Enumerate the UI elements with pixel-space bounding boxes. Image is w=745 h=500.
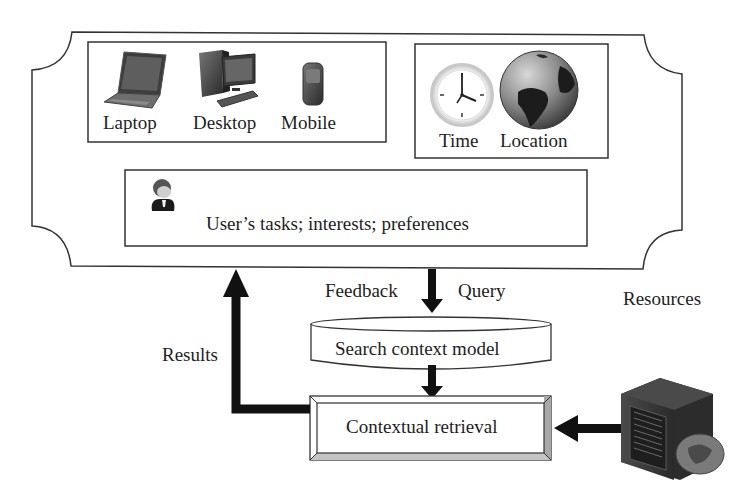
user-avatar-icon [152, 179, 175, 211]
device-label-mobile: Mobile [281, 112, 336, 134]
globe-icon [500, 51, 578, 129]
clock-icon [431, 64, 493, 126]
feedback-label: Feedback [325, 280, 398, 302]
query-label: Query [458, 280, 505, 302]
user-context-label: User’s tasks; interests; preferences [206, 213, 469, 235]
resources-label: Resources [623, 288, 701, 310]
results-arrow [223, 269, 310, 409]
laptop-icon [104, 52, 166, 108]
search-context-model-label: Search context model [335, 338, 500, 360]
contextual-retrieval-label: Contextual retrieval [346, 416, 497, 438]
query-arrow [421, 269, 443, 313]
model-to-retrieval-arrow [421, 365, 443, 399]
environment-label-time: Time [439, 130, 478, 152]
desktop-computer-icon [199, 50, 258, 107]
results-label: Results [162, 344, 218, 366]
mobile-phone-icon [303, 63, 323, 105]
device-label-desktop: Desktop [193, 112, 256, 134]
server-database-icon [621, 378, 724, 480]
environment-label-location: Location [500, 130, 568, 152]
resources-arrow [554, 415, 623, 442]
device-label-laptop: Laptop [103, 112, 157, 134]
